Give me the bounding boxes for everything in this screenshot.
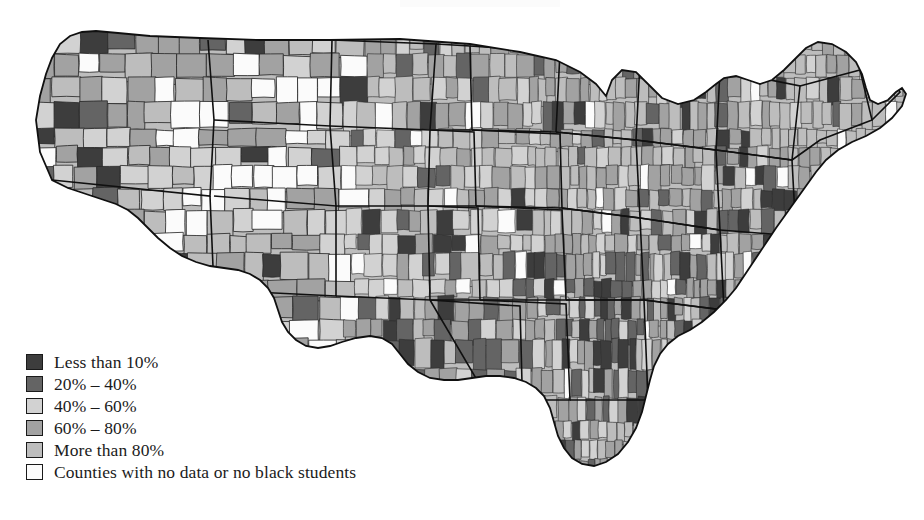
county-cell <box>443 441 456 455</box>
county-cell <box>473 458 488 477</box>
county-cell <box>566 254 576 282</box>
county-cell <box>796 211 806 238</box>
county-cell <box>845 252 854 282</box>
county-cell <box>800 297 808 323</box>
county-cell <box>846 319 854 343</box>
county-cell <box>739 459 748 479</box>
county-cell <box>515 251 526 279</box>
county-cell <box>228 128 257 146</box>
county-cell <box>545 441 555 461</box>
county-cell <box>520 398 536 421</box>
county-cell <box>684 439 694 465</box>
county-cell <box>152 296 176 317</box>
county-cell <box>663 25 673 57</box>
county-cell <box>287 188 317 209</box>
county-cell <box>687 278 694 300</box>
county-cell <box>882 421 890 444</box>
county-cell <box>658 190 668 206</box>
county-cell <box>125 209 144 239</box>
county-cell <box>820 235 831 251</box>
county-cell <box>604 369 612 400</box>
county-cell <box>752 441 761 456</box>
county-cell <box>765 339 775 368</box>
county-cell <box>412 441 429 457</box>
county-cell <box>49 190 74 217</box>
county-cell <box>394 368 409 403</box>
county-cell <box>864 340 875 365</box>
county-cell <box>592 130 604 147</box>
county-cell <box>292 235 321 250</box>
county-cell <box>346 208 362 238</box>
county-cell <box>534 458 543 474</box>
county-cell <box>694 280 700 298</box>
county-cell <box>897 128 909 151</box>
county-cell <box>848 189 858 214</box>
county-cell <box>846 280 853 298</box>
county-cell <box>839 190 848 216</box>
county-cell <box>730 297 738 324</box>
county-cell <box>256 128 287 147</box>
county-cell <box>822 26 834 57</box>
county-cell <box>816 55 827 77</box>
county-cell <box>741 278 750 301</box>
county-cell <box>834 210 844 233</box>
county-cell <box>252 210 282 229</box>
county-cell <box>339 189 369 207</box>
legend-swatch-more-than-80 <box>26 442 43 458</box>
county-cell <box>574 102 585 125</box>
county-cell <box>375 147 390 165</box>
county-cell <box>899 187 909 214</box>
county-cell <box>581 440 589 457</box>
county-cell <box>909 188 919 215</box>
county-cell <box>911 339 919 377</box>
county-cell <box>674 54 686 80</box>
county-cell <box>392 102 406 130</box>
county-cell <box>887 253 893 283</box>
county-cell <box>800 281 810 298</box>
county-cell <box>794 254 801 286</box>
county-cell <box>358 459 374 477</box>
county-cell <box>681 234 690 251</box>
county-cell <box>169 146 191 168</box>
county-cell <box>749 278 760 299</box>
county-cell <box>280 252 308 280</box>
county-cell <box>798 128 807 146</box>
county-cell <box>369 189 385 211</box>
county-cell <box>522 459 534 481</box>
county-cell <box>731 321 741 342</box>
county-cell <box>606 165 618 185</box>
county-cell <box>867 279 876 293</box>
county-cell <box>749 321 759 340</box>
county-cell <box>436 253 451 274</box>
county-cell <box>891 340 899 378</box>
county-cell <box>95 281 124 294</box>
county-cell <box>596 234 605 254</box>
county-cell <box>636 370 647 399</box>
county-cell <box>813 209 823 241</box>
county-cell <box>750 100 762 126</box>
county-cell <box>572 131 581 145</box>
county-cell <box>847 423 855 442</box>
county-cell <box>810 234 822 251</box>
county-cell <box>583 253 592 276</box>
county-cell <box>601 54 613 78</box>
county-cell <box>517 421 536 440</box>
county-cell <box>566 279 575 293</box>
county-cell <box>659 103 670 128</box>
county-cell <box>658 235 671 251</box>
county-cell <box>394 397 406 424</box>
county-cell <box>752 26 763 53</box>
county-cell <box>484 187 498 207</box>
county-cell <box>819 339 827 375</box>
county-cell <box>883 397 891 425</box>
county-cell <box>840 167 851 191</box>
county-cell <box>875 368 885 400</box>
county-cell <box>741 131 750 149</box>
county-cell <box>587 189 596 209</box>
county-cell <box>724 320 733 337</box>
county-cell <box>685 77 697 100</box>
county-cell <box>663 460 671 483</box>
county-cell <box>816 320 822 343</box>
county-cell <box>414 146 426 164</box>
county-cell <box>532 101 542 124</box>
